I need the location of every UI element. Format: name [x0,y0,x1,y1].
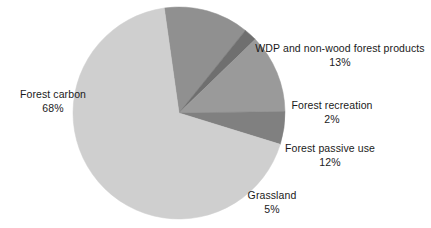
slice-label-grassland: Grassland 5% [222,189,322,216]
slice-label-forest-passive-use-percent: 12% [266,156,394,170]
slice-label-wdp-percent: 13% [252,56,428,70]
slice-label-forest-recreation-percent: 2% [268,113,396,127]
slice-label-wdp-name: WDP and non-wood forest products [252,42,428,56]
slice-label-forest-recreation: Forest recreation 2% [268,99,396,126]
slice-label-grassland-name: Grassland [222,189,322,203]
slice-label-forest-passive-use-name: Forest passive use [266,142,394,156]
slice-label-forest-carbon-name: Forest carbon [6,88,100,102]
slice-label-grassland-percent: 5% [222,203,322,217]
pie-chart-figure: WDP and non-wood forest products 13% For… [0,0,431,228]
pie-slice-group [73,7,285,219]
slice-label-forest-passive-use: Forest passive use 12% [266,142,394,169]
slice-label-forest-recreation-name: Forest recreation [268,99,396,113]
slice-label-forest-carbon-percent: 68% [6,102,100,116]
slice-label-forest-carbon: Forest carbon 68% [6,88,100,115]
slice-label-wdp: WDP and non-wood forest products 13% [252,42,428,69]
